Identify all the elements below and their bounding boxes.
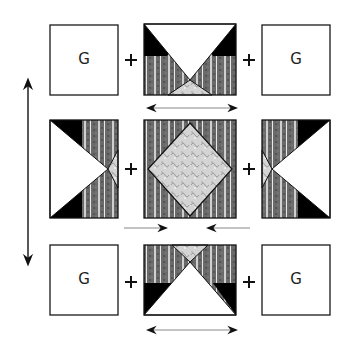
block-flying-geese-top: [144, 24, 236, 95]
plus-sign: [243, 163, 255, 175]
block-flying-geese-bottom: [144, 245, 236, 315]
plus-sign: [125, 276, 137, 288]
block-flying-geese-left: [50, 120, 118, 218]
label-g-bottom-right: G: [262, 270, 330, 288]
plus-sign: [243, 54, 255, 66]
label-g-top-right: G: [262, 50, 330, 68]
block-square-in-a-square: [144, 120, 236, 218]
plus-sign: [243, 276, 255, 288]
plus-sign: [125, 54, 137, 66]
plus-sign: [125, 163, 137, 175]
label-g-bottom-left: G: [50, 270, 118, 288]
block-flying-geese-right: [262, 120, 330, 218]
label-g-top-left: G: [50, 50, 118, 68]
